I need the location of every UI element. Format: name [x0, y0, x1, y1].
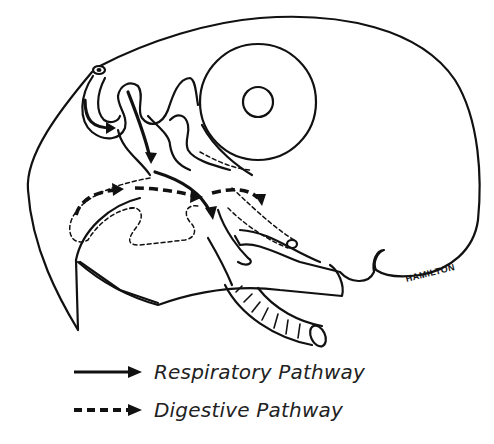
- eye: [200, 44, 316, 160]
- nostril-fill: [97, 68, 102, 72]
- dashed-arrow-icon: [72, 402, 144, 418]
- jaw-line: [80, 262, 158, 303]
- respiratory-arrow-down: [128, 92, 150, 158]
- lower-beak: [78, 262, 343, 305]
- nasal-septum: [118, 115, 230, 175]
- respiratory-arrowhead-3: [205, 206, 217, 220]
- digestive-arrow-mouth: [135, 188, 195, 196]
- trachea: [225, 285, 322, 345]
- solid-arrow-icon: [72, 364, 144, 380]
- tongue: [208, 210, 251, 285]
- legend-digestive: Digestive Pathway: [72, 398, 343, 422]
- esophagus-opening: [287, 240, 297, 248]
- legend-label-digestive: Digestive Pathway: [154, 398, 343, 422]
- mouth-pocket: [130, 206, 198, 245]
- pupil: [243, 87, 273, 117]
- digestive-arrowhead-3: [254, 194, 266, 206]
- glottis: [240, 230, 320, 262]
- respiratory-arrowhead-1: [106, 122, 116, 134]
- respiratory-arrowhead-2: [145, 152, 157, 164]
- nasal-inner: [98, 78, 120, 122]
- legend-label-respiratory: Respiratory Pathway: [154, 360, 365, 384]
- legend-respiratory: Respiratory Pathway: [72, 360, 365, 384]
